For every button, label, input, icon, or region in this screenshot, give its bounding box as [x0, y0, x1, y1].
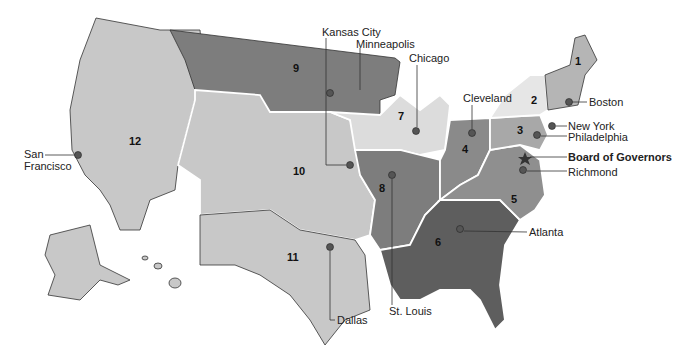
city-label-atlanta: Atlanta: [529, 226, 563, 238]
district-number: 5: [511, 193, 517, 205]
district-number: 7: [398, 110, 404, 122]
us-map: [0, 0, 685, 357]
city-label-chicago: Chicago: [409, 52, 449, 64]
city-label-minneapolis: Minneapolis: [356, 38, 415, 50]
city-label-philadelphia: Philadelphia: [568, 131, 628, 143]
alaska-region: [45, 225, 130, 300]
hawaii-island: [142, 256, 148, 260]
hawaii-island: [154, 263, 162, 269]
district-number: 1: [575, 55, 581, 67]
district-number: 2: [531, 94, 537, 106]
city-label-boston: Boston: [589, 96, 623, 108]
district-number: 10: [293, 165, 305, 177]
district-number: 8: [379, 182, 385, 194]
city-label-st-louis: St. Louis: [389, 305, 432, 317]
district-number: 12: [129, 135, 141, 147]
hawaii-island: [169, 278, 181, 288]
city-label-cleveland: Cleveland: [463, 92, 512, 104]
city-label-richmond: Richmond: [568, 166, 618, 178]
city-label-dallas: Dallas: [337, 314, 368, 326]
district-number: 3: [517, 124, 523, 136]
hq-label-board-of-governors: Board of Governors: [568, 151, 672, 163]
district-number: 9: [293, 62, 299, 74]
district-number: 11: [287, 251, 299, 263]
district-number: 6: [435, 236, 441, 248]
city-label-san-francisco: San Francisco: [24, 148, 74, 172]
district-number: 4: [462, 143, 468, 155]
city-label-kansas-city: Kansas City: [322, 26, 381, 38]
